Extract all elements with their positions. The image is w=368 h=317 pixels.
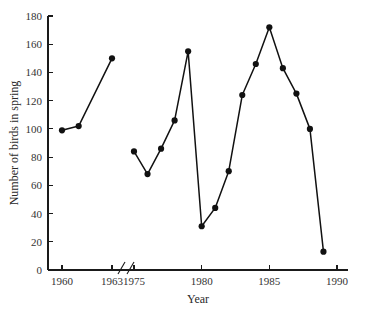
data-point xyxy=(185,48,191,54)
data-point xyxy=(76,123,82,129)
y-axis-title: Number of birds in spring xyxy=(7,81,21,206)
data-point xyxy=(131,148,137,154)
y-axis xyxy=(48,16,53,270)
y-tick-label: 0 xyxy=(37,264,43,276)
data-point xyxy=(59,127,65,133)
x-tick-label: 1963 xyxy=(101,275,124,287)
y-tick-label: 120 xyxy=(26,95,43,107)
data-point xyxy=(307,126,313,132)
data-point xyxy=(199,223,205,229)
y-tick-label: 140 xyxy=(26,66,43,78)
axis-break-marker xyxy=(118,262,134,274)
data-line xyxy=(62,58,112,130)
data-point xyxy=(320,249,326,255)
data-point xyxy=(293,91,299,97)
x-tick-label: 1980 xyxy=(191,275,214,287)
data-series-group xyxy=(59,24,327,255)
y-tick-label: 180 xyxy=(26,10,43,22)
x-tick-label: 1990 xyxy=(326,275,349,287)
y-tick-label: 160 xyxy=(26,38,43,50)
y-tick-label: 60 xyxy=(31,179,43,191)
x-tick-label: 1960 xyxy=(51,275,74,287)
x-axis xyxy=(48,265,348,270)
y-tick-label: 40 xyxy=(31,208,43,220)
chart-canvas: 0204060801001201401601801960196319751980… xyxy=(0,0,368,317)
x-axis-title: Year xyxy=(187,292,209,306)
data-point xyxy=(280,65,286,71)
x-tick-label: 1985 xyxy=(258,275,281,287)
y-tick-label: 20 xyxy=(31,236,43,248)
data-point xyxy=(239,92,245,98)
y-tick-label: 100 xyxy=(26,123,43,135)
data-point xyxy=(144,171,150,177)
data-point xyxy=(172,117,178,123)
data-point xyxy=(158,146,164,152)
data-point xyxy=(253,61,259,67)
data-point xyxy=(109,55,115,61)
bird-population-chart: 0204060801001201401601801960196319751980… xyxy=(0,0,368,317)
data-point xyxy=(266,24,272,30)
data-point xyxy=(226,168,232,174)
data-line xyxy=(134,27,323,251)
x-tick-label: 1975 xyxy=(123,275,146,287)
y-tick-label: 80 xyxy=(31,151,43,163)
data-point xyxy=(212,205,218,211)
